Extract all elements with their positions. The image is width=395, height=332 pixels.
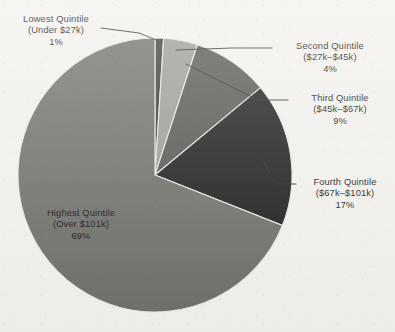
slice-label-highest-quintile: Highest Quintile (Over $101k) 69% — [27, 208, 135, 242]
slice-label-percent: 17% — [297, 200, 393, 211]
slice-label-lowest-quintile: Lowest Quintile (Under $27k) 1% — [8, 14, 104, 48]
slice-label-name: Third Quintile — [290, 93, 390, 104]
slice-label-range: (Over $101k) — [27, 219, 135, 230]
slice-label-range: ($67k–$101k) — [297, 188, 393, 199]
slice-label-fourth-quintile: Fourth Quintile ($67k–$101k) 17% — [297, 177, 393, 211]
slice-label-name: Fourth Quintile — [297, 177, 393, 188]
slice-label-second-quintile: Second Quintile ($27k–$45k) 4% — [274, 41, 386, 75]
pie-chart-figure: Lowest Quintile (Under $27k) 1% Second Q… — [0, 0, 395, 332]
slice-label-range: (Under $27k) — [8, 25, 104, 36]
pie-slice-group — [18, 38, 292, 312]
slice-label-name: Lowest Quintile — [8, 14, 104, 25]
slice-label-percent: 9% — [290, 116, 390, 127]
slice-label-name: Second Quintile — [274, 41, 386, 52]
slice-label-percent: 69% — [27, 231, 135, 242]
slice-label-range: ($45k–$67k) — [290, 104, 390, 115]
slice-label-third-quintile: Third Quintile ($45k–$67k) 9% — [290, 93, 390, 127]
slice-label-name: Highest Quintile — [27, 208, 135, 219]
slice-label-percent: 1% — [8, 37, 104, 48]
slice-label-range: ($27k–$45k) — [274, 52, 386, 63]
slice-label-percent: 4% — [274, 64, 386, 75]
